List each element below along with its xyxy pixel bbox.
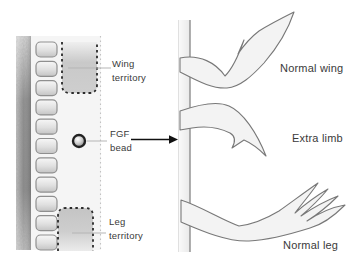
extra-limb-label: Extra limb bbox=[292, 132, 343, 145]
leg-territory-label: Leg territory bbox=[109, 215, 153, 242]
wing-territory-label: Wing territory bbox=[112, 57, 156, 84]
somite bbox=[36, 196, 57, 211]
neural-tube-band bbox=[16, 36, 31, 250]
figure-canvas: Wing territory FGF bead Leg territory No… bbox=[0, 0, 351, 255]
somite bbox=[36, 61, 57, 76]
somite bbox=[36, 235, 57, 250]
somite bbox=[36, 100, 57, 115]
somite bbox=[36, 216, 57, 231]
somite-column bbox=[36, 42, 57, 250]
extra-limb-shape bbox=[180, 104, 266, 156]
somite bbox=[36, 119, 57, 134]
somite bbox=[36, 158, 57, 173]
leg-territory-region bbox=[58, 208, 93, 251]
somite bbox=[36, 42, 57, 57]
diagram-art bbox=[0, 0, 351, 255]
normal-leg-label: Normal leg bbox=[283, 239, 338, 252]
somite bbox=[36, 81, 57, 96]
normal-leg-shape bbox=[181, 183, 345, 241]
fgf-bead-label: FGF bead bbox=[110, 127, 144, 154]
normal-wing-shape bbox=[180, 12, 294, 88]
somite bbox=[36, 139, 57, 154]
somite bbox=[36, 177, 57, 192]
normal-wing-label: Normal wing bbox=[280, 62, 343, 75]
fgf-bead bbox=[73, 135, 85, 147]
